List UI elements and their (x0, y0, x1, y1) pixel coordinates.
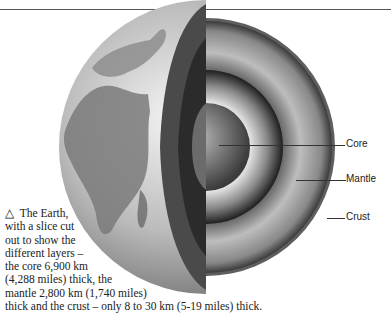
caption-line: the core 6,900 km (5, 260, 391, 273)
core-label: Core (346, 138, 368, 149)
caption-line: different layers – (5, 247, 391, 260)
caption-line: The Earth, (20, 207, 69, 219)
caption-line: out to show the (5, 234, 391, 247)
caption: △ The Earth, with a slice cut out to sho… (5, 207, 391, 313)
caption-line: thick and the crust – only 8 to 30 km (5… (5, 300, 391, 313)
triangle-marker-icon: △ (5, 207, 14, 219)
caption-line: (4,288 miles) thick, the (5, 273, 391, 286)
core-leader (219, 145, 345, 146)
caption-line: mantle 2,800 km (1,740 miles) (5, 287, 391, 300)
caption-line: with a slice cut (5, 220, 391, 233)
mantle-label: Mantle (346, 173, 376, 184)
mantle-leader (296, 180, 346, 181)
